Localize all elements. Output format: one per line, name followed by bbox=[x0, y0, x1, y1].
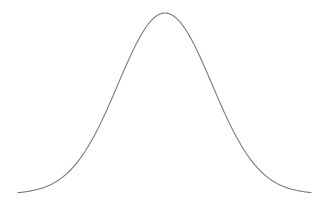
normal-distribution-curve bbox=[18, 13, 311, 193]
bell-curve-chart bbox=[0, 0, 327, 205]
